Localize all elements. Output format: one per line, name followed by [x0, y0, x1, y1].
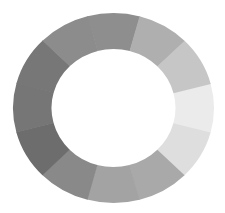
color-wheel-canvas	[0, 0, 225, 213]
grayscale-ring	[0, 0, 225, 213]
